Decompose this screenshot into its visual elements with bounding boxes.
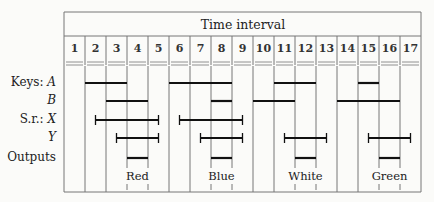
column-number: 1 [64, 42, 85, 55]
row-labels: Keys: ABS.r.: XYOutputs [0, 0, 56, 202]
row-label: Keys: A [11, 75, 56, 89]
column-number: 3 [106, 42, 127, 55]
column-number: 15 [358, 42, 379, 55]
column-number: 2 [85, 42, 106, 55]
column-number: 11 [274, 42, 295, 55]
column-number: 10 [253, 42, 274, 55]
column-number: 12 [295, 42, 316, 55]
row-label: S.r.: X [20, 112, 56, 126]
column-number: 17 [400, 42, 421, 55]
column-number: 5 [148, 42, 169, 55]
column-number: 9 [232, 42, 253, 55]
row-label: Outputs [7, 150, 56, 164]
output-label-green: Green [360, 169, 420, 183]
column-number: 6 [169, 42, 190, 55]
row-label: B [47, 93, 56, 107]
output-label-white: White [276, 169, 336, 183]
column-number: 14 [337, 42, 358, 55]
output-label-blue: Blue [192, 169, 252, 183]
output-label-red: Red [108, 169, 168, 183]
column-number: 4 [127, 42, 148, 55]
column-number: 7 [190, 42, 211, 55]
row-label: Y [48, 130, 56, 144]
header-title: Time interval [64, 17, 422, 32]
column-number: 8 [211, 42, 232, 55]
timing-diagram: Time interval 1234567891011121314151617 … [0, 0, 434, 202]
column-number: 16 [379, 42, 400, 55]
column-number: 13 [316, 42, 337, 55]
